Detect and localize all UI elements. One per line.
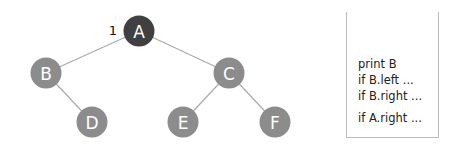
node-c: C xyxy=(214,58,245,89)
call-stack-lines: print B if B.left ... if B.right ... if … xyxy=(358,56,422,126)
svg-text:D: D xyxy=(85,113,98,133)
stack-line: print B xyxy=(358,56,422,72)
node-e: E xyxy=(168,107,199,138)
node-d: D xyxy=(77,107,108,138)
node-b: B xyxy=(31,58,62,89)
svg-text:F: F xyxy=(270,113,280,133)
svg-text:E: E xyxy=(178,113,189,133)
step-label: 1 xyxy=(109,23,117,38)
node-f: F xyxy=(260,107,291,138)
stack-line: if A.right ... xyxy=(358,110,422,126)
call-stack-box: print B if B.left ... if B.right ... if … xyxy=(346,12,439,138)
svg-text:A: A xyxy=(133,22,145,42)
stack-line: if B.right ... xyxy=(358,88,422,104)
svg-text:B: B xyxy=(40,64,52,84)
svg-text:C: C xyxy=(223,64,235,84)
stack-line: if B.left ... xyxy=(358,72,422,88)
node-a: A xyxy=(124,16,155,47)
